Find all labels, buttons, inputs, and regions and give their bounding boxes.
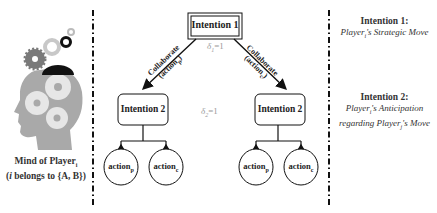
legend-intention-2-desc-1: Playeri's Anticipation <box>332 103 437 118</box>
legend-intention-1: Intention 1: Playeri's Strategic Move <box>332 16 437 42</box>
legend-intention-2-title: Intention 2: <box>332 92 437 103</box>
left-connectors <box>118 125 169 150</box>
leaf-right-c-label: actionc <box>284 161 318 173</box>
leaf-left-c-label: actionc <box>149 161 183 173</box>
legend-intention-1-title: Intention 1: <box>332 16 437 27</box>
delta2-label: δ2=1 <box>201 106 218 118</box>
leaf-left-p-label: actionp <box>104 161 138 173</box>
right-connectors <box>253 125 304 150</box>
right-child-label: Intention 2 <box>255 104 305 114</box>
legend-intention-2: Intention 2: Playeri's Anticipation rega… <box>332 92 437 133</box>
legend-intention-1-desc: Playeri's Strategic Move <box>332 27 437 42</box>
leaf-right-p-label: actionp <box>239 161 273 173</box>
left-child-label: Intention 2 <box>118 104 168 114</box>
delta1-label: δ1=1 <box>207 41 224 53</box>
legend-intention-2-desc-2: regarding Playerj's Move <box>332 118 437 133</box>
root-label: Intention 1 <box>191 19 239 30</box>
